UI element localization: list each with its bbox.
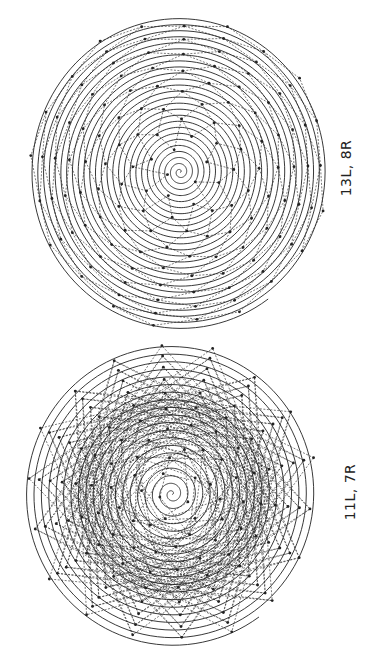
panel-bottom: 11L, 7R	[0, 0, 373, 669]
parastichy-lines	[29, 346, 313, 638]
panel-label-bottom: 11L, 7R	[342, 464, 358, 521]
spiral-diagram-11l-7r	[0, 0, 373, 669]
